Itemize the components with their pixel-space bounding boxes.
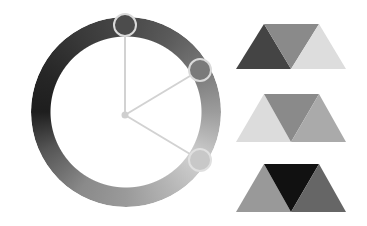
color-harmony-overlay (0, 0, 367, 226)
color-handle-1[interactable] (114, 14, 136, 36)
swatch-group-2[interactable] (236, 94, 346, 142)
swatch-group-3[interactable] (236, 164, 346, 212)
color-handle-2[interactable] (189, 59, 211, 81)
color-handle-3[interactable] (189, 149, 211, 171)
spoke-2 (125, 70, 200, 115)
wheel-center-dot (122, 112, 129, 119)
spokes (125, 25, 200, 160)
swatch-group-1[interactable] (236, 24, 346, 69)
spoke-3 (125, 115, 200, 160)
